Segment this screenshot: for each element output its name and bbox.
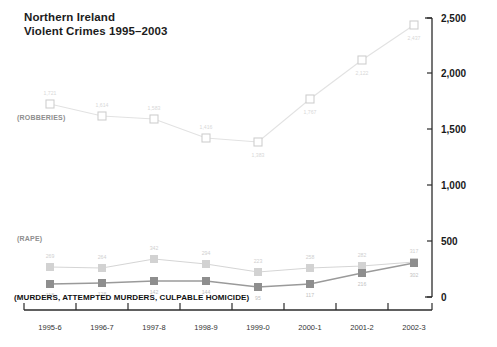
x-tick-label-2002-3: 2002-3 xyxy=(402,323,425,332)
robberies-marker-6 xyxy=(358,56,366,64)
rape-value-label-3: 294 xyxy=(202,250,211,256)
rape-marker-0 xyxy=(46,263,54,271)
robberies-value-label-7: 2,437 xyxy=(408,35,421,41)
violent-crimes-line-chart: Northern Ireland Violent Crimes 1995–200… xyxy=(0,0,497,347)
series-robberies: 1,721 1,614 1,583 1,416 1,383 1,767 2,12… xyxy=(17,21,421,158)
robberies-marker-5 xyxy=(306,95,314,103)
y-axis: 2,500 2,000 1,500 1,000 500 0 xyxy=(425,13,466,303)
rape-marker-4 xyxy=(254,268,262,276)
rape-marker-6 xyxy=(358,262,366,270)
robberies-value-label-6: 2,122 xyxy=(356,70,369,76)
chart-title-line-2: Violent Crimes 1995–2003 xyxy=(24,25,167,37)
murders-value-label-5: 117 xyxy=(306,292,314,298)
chart-title-line-1: Northern Ireland xyxy=(24,11,115,23)
robberies-marker-0 xyxy=(46,100,54,108)
x-tick-label-2001-2: 2001-2 xyxy=(350,323,373,332)
robberies-marker-7 xyxy=(410,21,418,29)
x-tick-label-2000-1: 2000-1 xyxy=(298,323,321,332)
y-tick-label-500: 500 xyxy=(441,236,458,247)
rape-marker-2 xyxy=(150,255,158,263)
murders-marker-4 xyxy=(254,283,262,291)
murders-marker-2 xyxy=(150,277,158,285)
chart-container: Northern Ireland Violent Crimes 1995–200… xyxy=(0,0,497,347)
rape-value-label-4: 223 xyxy=(254,258,263,264)
rape-value-label-1: 264 xyxy=(98,254,107,260)
robberies-value-label-5: 1,767 xyxy=(304,109,317,115)
robberies-value-label-2: 1,583 xyxy=(148,105,161,111)
robberies-marker-4 xyxy=(254,138,262,146)
x-tick-label-1999-0: 1999-0 xyxy=(246,323,269,332)
x-tick-label-1997-8: 1997-8 xyxy=(142,323,165,332)
rape-marker-3 xyxy=(202,260,210,268)
rape-value-label-0: 269 xyxy=(46,253,55,259)
murders-marker-1 xyxy=(98,279,106,287)
rape-value-label-5: 258 xyxy=(306,254,315,260)
rape-value-label-2: 342 xyxy=(150,245,159,251)
series-label-murders: (MURDERS, ATTEMPTED MURDERS, CULPABLE HO… xyxy=(14,293,249,302)
robberies-value-label-1: 1,614 xyxy=(96,102,109,108)
murders-value-label-7: 302 xyxy=(410,272,419,278)
series-label-robberies: (ROBBERIES) xyxy=(17,114,65,122)
murders-marker-7 xyxy=(410,259,418,267)
y-tick-label-0: 0 xyxy=(441,292,447,303)
y-tick-label-1000: 1,000 xyxy=(441,180,466,191)
robberies-line xyxy=(50,25,414,142)
x-tick-label-1998-9: 1998-9 xyxy=(194,323,217,332)
y-tick-label-2000: 2,000 xyxy=(441,68,466,79)
murders-value-label-6: 216 xyxy=(358,281,367,287)
murders-marker-6 xyxy=(358,269,366,277)
murders-marker-3 xyxy=(202,277,210,285)
x-tick-label-1995-6: 1995-6 xyxy=(38,323,61,332)
y-tick-label-2500: 2,500 xyxy=(441,13,466,24)
rape-marker-5 xyxy=(306,264,314,272)
series-label-rape: (RAPE) xyxy=(17,235,42,243)
rape-value-label-6: 282 xyxy=(358,252,367,258)
x-axis: 1995-6 1996-7 1997-8 1998-9 1999-0 2000-… xyxy=(24,303,432,332)
robberies-marker-3 xyxy=(202,134,210,142)
robberies-marker-1 xyxy=(98,112,106,120)
murders-marker-5 xyxy=(306,280,314,288)
chart-title: Northern Ireland Violent Crimes 1995–200… xyxy=(24,11,167,37)
rape-value-label-7: 317 xyxy=(410,248,419,254)
robberies-value-label-0: 1,721 xyxy=(44,90,57,96)
x-tick-label-1996-7: 1996-7 xyxy=(90,323,113,332)
murders-marker-0 xyxy=(46,280,54,288)
murders-value-label-4: 95 xyxy=(255,295,261,301)
robberies-marker-2 xyxy=(150,115,158,123)
y-tick-label-1500: 1,500 xyxy=(441,124,466,135)
rape-marker-1 xyxy=(98,264,106,272)
robberies-value-label-3: 1,416 xyxy=(200,124,213,130)
robberies-value-label-4: 1,383 xyxy=(252,152,265,158)
